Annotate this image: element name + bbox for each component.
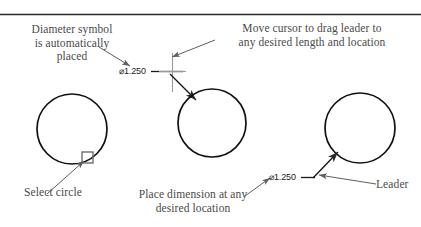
annotation-leader: Leader: [376, 178, 421, 192]
circle-3: [325, 93, 395, 163]
move-cursor-leader: [172, 40, 215, 57]
circle-1: [37, 94, 107, 164]
annotation-diameter-symbol: Diameter symbol is automatically placed: [8, 23, 136, 64]
right-leader-line: [313, 152, 338, 178]
dimension-label-right: ⌀1.250: [269, 172, 296, 182]
circle-2: [178, 89, 246, 157]
dimension-label-middle: ⌀1.250: [119, 66, 146, 76]
annotation-move-cursor: Move cursor to drag leader to any desire…: [212, 22, 412, 49]
figure-canvas: Diameter symbol is automatically placed …: [0, 0, 421, 227]
leader-callout-line: [319, 175, 376, 184]
annotation-place-dimension: Place dimension at any desired location: [122, 188, 264, 215]
annotation-select-circle: Select circle: [9, 186, 97, 200]
